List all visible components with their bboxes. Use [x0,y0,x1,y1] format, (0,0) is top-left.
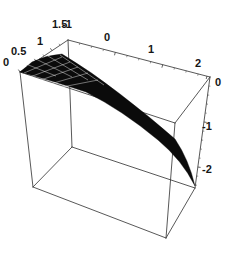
x-axis-tick-label-2: 2 [195,57,201,69]
z-axis-tick-label-minus-2: -2 [202,163,212,175]
y-axis-tick-label-1: 1 [37,35,43,47]
x-axis-corner-label-minus-1: -1 [62,18,72,30]
box-edge-bottom-back-left [33,147,72,187]
z-axis-tick-label-minus-1: -1 [202,120,212,132]
y-axis-tick-label-0: 0 [3,56,9,68]
y-axis-tick-label-0-5: 0.5 [11,45,26,57]
surface-3d [20,54,195,186]
x-axis-tick-label-0: 0 [104,31,110,43]
surface-plot-figure: 0 0.5 1 1.5 -1 0 1 2 0 -1 -2 [0,0,240,259]
box-edge-bottom-front-right [166,188,195,238]
surface-patch [20,54,195,186]
box-edge-bottom-front-left [33,187,166,238]
x-axis-tick-label-1: 1 [148,43,154,55]
box-edge-vertical-back [68,40,72,147]
box-edge-vertical-left [20,72,33,187]
z-axis-tick-label-0: 0 [215,76,221,88]
surface-plot-canvas: 0 0.5 1 1.5 -1 0 1 2 0 -1 -2 [0,0,240,259]
